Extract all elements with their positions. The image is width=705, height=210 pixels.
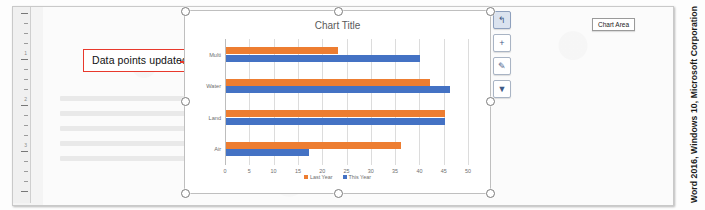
selection-handle-top-left[interactable] <box>181 7 190 16</box>
legend-swatch <box>304 175 308 179</box>
gridline <box>444 39 445 165</box>
plot-area[interactable]: MultiWaterLandAir05101520253035404550 <box>225 39 468 165</box>
chart-filters-button[interactable]: ▼ <box>493 80 511 98</box>
chart-legend[interactable]: Last YearThis Year <box>185 174 490 180</box>
bar-land-this-year[interactable] <box>226 118 445 125</box>
chart-styles-button[interactable]: ✎ <box>493 57 511 75</box>
bar-air-this-year[interactable] <box>226 149 309 156</box>
selection-handle-top-right[interactable] <box>486 7 495 16</box>
legend-label: This Year <box>349 174 371 180</box>
selection-handle-bottom-left[interactable] <box>181 189 190 198</box>
ruler-number-3: 3 <box>24 142 27 148</box>
layout-options-icon: ↰ <box>498 16 506 25</box>
selection-handle-bottom-right[interactable] <box>486 189 495 198</box>
chart-object[interactable]: Chart Title MultiWaterLandAir05101520253… <box>184 10 491 194</box>
chart-elements-button[interactable]: + <box>493 34 511 52</box>
ruler-number-2: 2 <box>24 96 27 102</box>
copyright-text: Word 2016, Windows 10, Microsoft Corpora… <box>689 6 699 203</box>
chart-elements-icon: + <box>499 39 504 48</box>
bar-land-last-year[interactable] <box>226 110 445 117</box>
chart-title[interactable]: Chart Title <box>185 20 490 31</box>
selection-handle-top-center[interactable] <box>334 7 343 16</box>
category-label-multi: Multi <box>209 52 221 58</box>
legend-swatch <box>343 175 347 179</box>
bar-multi-last-year[interactable] <box>226 47 338 54</box>
chart-filters-icon: ▼ <box>498 85 507 94</box>
legend-label: Last Year <box>310 174 332 180</box>
bar-multi-this-year[interactable] <box>226 55 420 62</box>
selection-handle-middle-left[interactable] <box>181 97 190 106</box>
category-label-land: Land <box>209 115 221 121</box>
legend-item-last-year[interactable]: Last Year <box>304 174 332 180</box>
vertical-ruler[interactable]: 1 2 3 <box>13 7 31 203</box>
bar-water-this-year[interactable] <box>226 86 450 93</box>
layout-options-button[interactable]: ↰ <box>493 11 511 29</box>
bar-water-last-year[interactable] <box>226 79 430 86</box>
chart-side-buttons[interactable]: ↰+✎▼ <box>493 11 513 103</box>
chart-styles-icon: ✎ <box>498 62 506 71</box>
selection-handle-bottom-center[interactable] <box>334 189 343 198</box>
ruler-number-1: 1 <box>24 50 27 56</box>
scanned-page-background: 1 2 3 Data points updated Chart Title Mu… <box>0 0 705 210</box>
gridline <box>468 39 469 165</box>
category-label-air: Air <box>214 146 221 152</box>
category-label-water: Water <box>206 83 221 89</box>
copyright-caption: Word 2016, Windows 10, Microsoft Corpora… <box>685 0 703 210</box>
selection-handle-middle-right[interactable] <box>486 97 495 106</box>
bar-air-last-year[interactable] <box>226 142 401 149</box>
chart-area-tooltip: Chart Area <box>592 18 635 31</box>
legend-item-this-year[interactable]: This Year <box>343 174 371 180</box>
